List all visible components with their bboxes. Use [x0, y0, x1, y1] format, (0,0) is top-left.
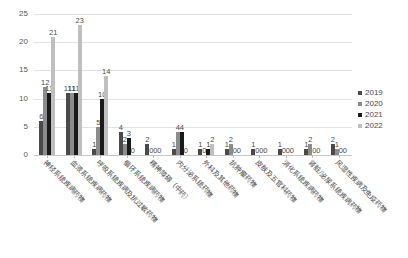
x-axis-tick: [206, 155, 207, 158]
bar-slot: 0: [237, 14, 241, 155]
legend-swatch: [358, 102, 362, 106]
y-axis-tick-20: 20: [19, 38, 28, 46]
x-axis-label-cell: 循环系统疾病药物: [114, 155, 141, 255]
x-axis-tick: [153, 155, 154, 158]
bar: [210, 144, 214, 155]
x-axis-label-cell: 神经系统疾病药物: [34, 155, 61, 255]
bar-groups: 6121121111111231510144230200014401012120…: [34, 14, 352, 155]
y-axis-tick-5: 5: [24, 123, 28, 131]
bar-slot: 21: [51, 14, 55, 155]
x-axis-label-cell: 精神障碍（中药）: [140, 155, 167, 255]
x-axis-label-cell: 皮肤及五官科药物: [246, 155, 273, 255]
bar-value-label: 2: [210, 136, 214, 144]
bar-group: 11111123: [61, 14, 88, 155]
bar-group: 2000: [140, 14, 167, 155]
legend-item[interactable]: 2021: [358, 110, 383, 119]
bar-slot: 2: [210, 14, 214, 155]
bar-value-label: 0: [131, 147, 135, 155]
bar-chart: 0510152025 61211211111112315101442302000…: [0, 0, 408, 258]
bar-group: 4230: [114, 14, 141, 155]
bar-value-label: 23: [76, 17, 84, 25]
y-axis-tick-0: 0: [24, 151, 28, 159]
bar-group: 151014: [87, 14, 114, 155]
bar-group: 2100: [326, 14, 353, 155]
legend: 2019202020212022: [358, 88, 383, 130]
bar-slot: 14: [104, 14, 108, 155]
x-axis-tick: [74, 155, 75, 158]
x-axis-label: 风湿性疾病及免疫药物: [333, 159, 388, 214]
bar-slot: 0: [290, 14, 294, 155]
x-axis-labels: 神经系统疾病药物血液系统疾病药物呼吸系统疾病及抗过敏药物循环系统疾病药物精神障碍…: [34, 155, 352, 255]
legend-swatch: [358, 113, 362, 117]
x-axis-tick: [259, 155, 260, 158]
bar: [78, 25, 82, 155]
x-axis-tick: [286, 155, 287, 158]
x-axis-tick: [47, 155, 48, 158]
bar-group: 6121121: [34, 14, 61, 155]
legend-label: 2022: [365, 121, 383, 130]
bar-group: 1012: [193, 14, 220, 155]
bar-value-label: 0: [184, 147, 188, 155]
x-axis-tick: [312, 155, 313, 158]
x-axis-label-cell: 呼吸系统疾病及抗过敏药物: [87, 155, 114, 255]
x-axis-label-cell: 抗肿瘤药物: [220, 155, 247, 255]
bar-slot: 0: [343, 14, 347, 155]
bar: [104, 76, 108, 155]
bar-value-label: 21: [49, 29, 57, 37]
x-axis-tick: [180, 155, 181, 158]
legend-label: 2020: [365, 99, 383, 108]
bar-value-label: 0: [316, 147, 320, 155]
bar-value-label: 0: [263, 147, 267, 155]
plot-area: 6121121111111231510144230200014401012120…: [34, 14, 352, 155]
legend-swatch: [358, 124, 362, 128]
x-axis-tick: [100, 155, 101, 158]
bar-slot: 0: [263, 14, 267, 155]
y-axis: 0510152025: [0, 14, 32, 155]
bar-value-label: 0: [343, 147, 347, 155]
legend-label: 2019: [365, 88, 383, 97]
bar-value-label: 0: [237, 147, 241, 155]
bar-slot: 0: [316, 14, 320, 155]
x-axis-tick: [127, 155, 128, 158]
bar: [51, 37, 55, 155]
bar-group: 1200: [299, 14, 326, 155]
bar-group: 1000: [246, 14, 273, 155]
legend-item[interactable]: 2022: [358, 121, 383, 130]
x-axis-label-cell: 外科及其他药物: [193, 155, 220, 255]
legend-label: 2021: [365, 110, 383, 119]
x-axis-label-cell: 内分泌系统药物: [167, 155, 194, 255]
bar-slot: 0: [131, 14, 135, 155]
x-axis-label-cell: 肾脏/泌尿系统疾病药物: [299, 155, 326, 255]
bar-group: 1440: [167, 14, 194, 155]
bar-value-label: 14: [102, 68, 110, 76]
bar-slot: 0: [157, 14, 161, 155]
bar-group: 1000: [273, 14, 300, 155]
x-axis-label-cell: 风湿性疾病及免疫药物: [326, 155, 353, 255]
bar-slot: 23: [78, 14, 82, 155]
bar-value-label: 0: [157, 147, 161, 155]
legend-item[interactable]: 2019: [358, 88, 383, 97]
y-axis-tick-10: 10: [19, 95, 28, 103]
x-axis-label-cell: 血液系统疾病药物: [61, 155, 88, 255]
bar-group: 1200: [220, 14, 247, 155]
bar-value-label: 0: [290, 147, 294, 155]
legend-item[interactable]: 2020: [358, 99, 383, 108]
y-axis-tick-25: 25: [19, 10, 28, 18]
x-axis-label-cell: 消化系统疾病药物: [273, 155, 300, 255]
y-axis-tick-15: 15: [19, 66, 28, 74]
bar-slot: 0: [184, 14, 188, 155]
x-axis-tick: [233, 155, 234, 158]
legend-swatch: [358, 91, 362, 95]
x-axis-tick: [339, 155, 340, 158]
